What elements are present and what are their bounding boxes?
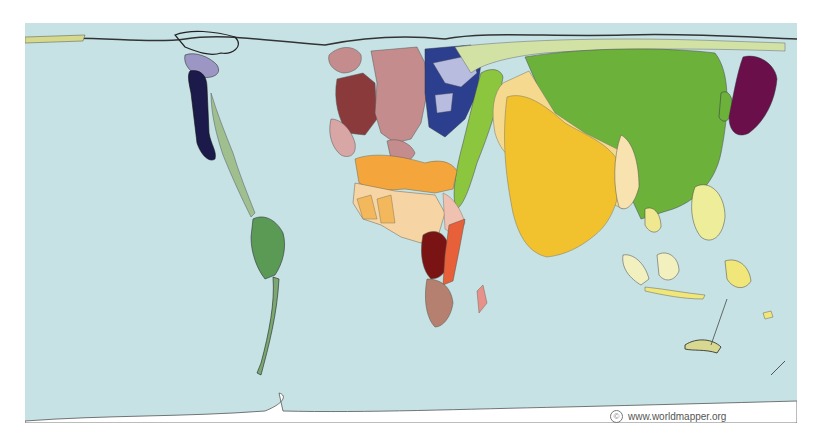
world-cartogram-svg [25, 23, 797, 423]
canada-arctic-islands [175, 31, 238, 54]
south-america [251, 217, 285, 279]
pacific-island [763, 311, 773, 319]
usa-canada [188, 71, 215, 160]
alaska-strip [25, 35, 85, 43]
madagascar [477, 285, 487, 313]
new-zealand [771, 361, 785, 375]
australia-link [711, 299, 727, 345]
central-europe [371, 47, 427, 143]
central-america [211, 93, 255, 217]
copyright-icon: © [610, 410, 623, 423]
java [645, 287, 705, 299]
australia [685, 340, 721, 353]
sumatra [623, 255, 649, 285]
map-credit: © www.worldmapper.org [610, 410, 726, 423]
cartogram-map [25, 23, 797, 423]
new-guinea [725, 260, 751, 288]
borneo [657, 253, 679, 280]
southern-cone [257, 277, 279, 375]
philippines [692, 185, 725, 240]
japan [729, 56, 777, 135]
southern-africa [425, 279, 453, 327]
credit-url[interactable]: www.worldmapper.org [628, 411, 726, 422]
scandinavia-uk [329, 48, 362, 74]
